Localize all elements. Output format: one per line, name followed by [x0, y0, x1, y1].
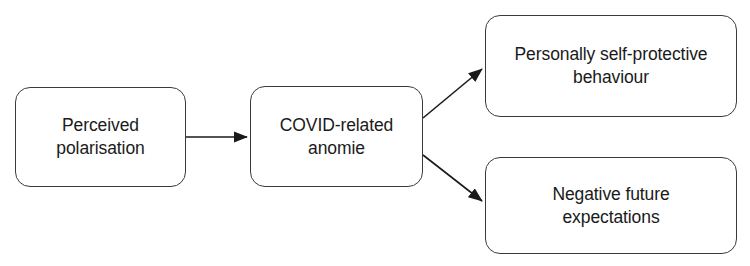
- node-self-protective-behaviour-label: Personally self-protective behaviour: [509, 43, 714, 89]
- node-perceived-polarisation-label: Perceived polarisation: [50, 114, 150, 160]
- node-perceived-polarisation: Perceived polarisation: [15, 87, 186, 187]
- node-negative-future-expectations: Negative future expectations: [485, 157, 737, 254]
- arrow-anomie-to-self-protective: [423, 69, 482, 118]
- flow-diagram: Perceived polarisation COVID-related ano…: [0, 0, 750, 266]
- arrow-anomie-to-negative-expectations: [423, 155, 482, 201]
- node-self-protective-behaviour: Personally self-protective behaviour: [485, 15, 737, 117]
- node-covid-anomie-label: COVID-related anomie: [274, 114, 399, 160]
- node-covid-anomie: COVID-related anomie: [250, 86, 423, 187]
- node-negative-future-expectations-label: Negative future expectations: [546, 183, 675, 229]
